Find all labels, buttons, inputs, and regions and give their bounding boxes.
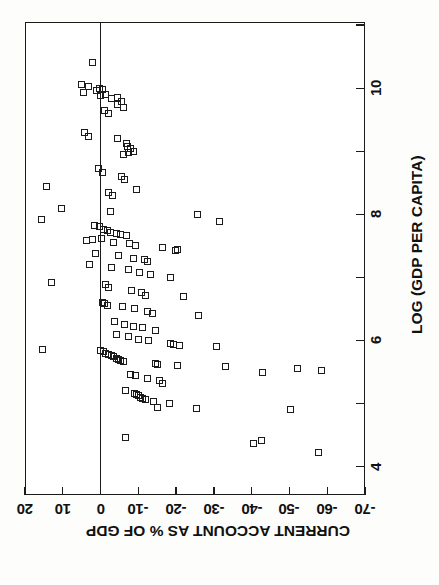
data-point xyxy=(114,135,121,142)
x-axis-tick xyxy=(356,214,365,215)
data-point xyxy=(145,337,152,344)
scatter-plot-figure: 20100-10-20-30-40-50-60-70 46810 CURRENT… xyxy=(0,0,439,585)
data-point xyxy=(152,327,159,334)
data-point xyxy=(136,269,143,276)
data-point xyxy=(194,211,201,218)
data-point xyxy=(133,186,140,193)
data-point xyxy=(97,92,104,99)
data-point xyxy=(167,274,174,281)
data-point xyxy=(176,342,183,349)
y-tick-label: -30 xyxy=(197,502,231,517)
y-axis-tick xyxy=(289,487,290,495)
data-point xyxy=(193,405,200,412)
data-point xyxy=(121,176,128,183)
data-point xyxy=(80,89,87,96)
data-point xyxy=(258,437,265,444)
data-point xyxy=(99,169,106,176)
data-point xyxy=(142,396,149,403)
data-point xyxy=(120,104,127,111)
data-point xyxy=(174,362,181,369)
x-axis-tick xyxy=(356,277,365,278)
x-tick-label: 10 xyxy=(368,78,386,98)
data-point xyxy=(38,216,45,223)
data-point xyxy=(83,237,90,244)
y-axis-title: CURRENT ACCOUNT AS % OF GDP xyxy=(86,524,350,540)
data-point xyxy=(43,183,50,190)
data-point xyxy=(130,255,137,262)
data-point xyxy=(250,440,257,447)
data-point xyxy=(216,218,223,225)
data-point xyxy=(105,284,112,291)
data-point xyxy=(92,250,99,257)
y-axis-tick xyxy=(175,487,176,495)
data-point xyxy=(315,449,322,456)
data-point xyxy=(139,324,146,331)
data-point xyxy=(144,375,151,382)
y-tick-label: 0 xyxy=(84,502,118,517)
y-axis-tick xyxy=(364,487,365,495)
x-axis-title: LOG (GDP PER CAPITA) xyxy=(409,156,425,335)
data-point xyxy=(108,264,115,271)
data-point xyxy=(159,244,166,251)
data-point xyxy=(154,361,161,368)
data-point xyxy=(39,346,46,353)
data-point xyxy=(222,363,229,370)
data-point xyxy=(154,404,161,411)
data-point xyxy=(86,261,93,268)
data-point xyxy=(121,321,128,328)
data-point xyxy=(130,323,137,330)
data-point xyxy=(149,310,156,317)
data-point xyxy=(119,303,126,310)
x-axis-tick xyxy=(356,88,365,89)
y-axis-tick xyxy=(327,487,328,495)
x-tick-label: 4 xyxy=(368,457,386,477)
data-point xyxy=(113,331,120,338)
data-point xyxy=(135,336,142,343)
y-axis-tick xyxy=(251,487,252,495)
x-axis-tick xyxy=(356,403,365,404)
x-axis-tick xyxy=(356,151,365,152)
data-point xyxy=(120,358,127,365)
data-point xyxy=(125,333,132,340)
data-point xyxy=(104,302,111,309)
y-tick-label: 20 xyxy=(8,502,42,517)
y-axis-tick xyxy=(138,487,139,495)
data-point xyxy=(115,252,122,259)
data-point xyxy=(85,133,92,140)
data-point xyxy=(166,400,173,407)
data-point xyxy=(123,232,130,239)
data-point xyxy=(195,312,202,319)
data-point xyxy=(172,247,179,254)
y-tick-label: -70 xyxy=(348,502,382,517)
data-point xyxy=(120,151,127,158)
data-point xyxy=(144,258,151,265)
data-point xyxy=(122,387,129,394)
y-tick-label: 10 xyxy=(46,502,80,517)
x-axis-tick xyxy=(356,340,365,341)
data-point xyxy=(132,372,139,379)
plot-frame xyxy=(25,22,365,495)
y-axis-tick xyxy=(62,487,63,495)
y-tick-label: -50 xyxy=(272,502,306,517)
data-point xyxy=(131,305,138,312)
x-tick-label: 6 xyxy=(368,330,386,350)
data-point xyxy=(147,271,154,278)
data-point xyxy=(122,434,129,441)
data-point xyxy=(107,208,114,215)
y-tick-label: -10 xyxy=(121,502,155,517)
data-point xyxy=(294,365,301,372)
data-point xyxy=(142,292,149,299)
y-axis-tick xyxy=(24,487,25,495)
data-point xyxy=(111,318,118,325)
data-point xyxy=(58,205,65,212)
data-point xyxy=(110,239,117,246)
y-tick-label: -20 xyxy=(159,502,193,517)
data-point xyxy=(180,293,187,300)
data-point xyxy=(105,110,112,117)
y-axis-tick xyxy=(100,487,101,495)
y-tick-label: -60 xyxy=(310,502,344,517)
y-axis-tick xyxy=(213,487,214,495)
data-point xyxy=(132,242,139,249)
data-point xyxy=(109,192,116,199)
data-point xyxy=(318,367,325,374)
